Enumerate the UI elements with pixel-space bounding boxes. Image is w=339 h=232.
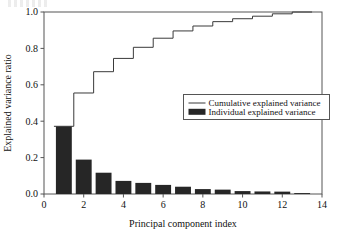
y-axis-title: Explained variance ratio [2,54,13,152]
chart-figure: 0.00.20.40.60.81.0 02468101214 Cumulativ… [0,0,339,232]
x-tick-label: 6 [161,199,166,210]
y-tick-label: 0.0 [26,188,39,199]
x-tick-label: 14 [317,199,327,210]
y-tick-label: 0.4 [26,116,39,127]
y-tick-label: 0.6 [26,79,39,90]
bar-item [115,181,131,194]
x-tick-label: 8 [200,199,205,210]
bar-item [56,126,72,194]
bar-item [155,185,171,194]
bar-item [215,190,231,194]
bar-item [195,189,211,194]
x-axis-title: Principal component index [129,218,237,229]
bar-item [96,173,112,194]
y-tick-label: 1.0 [26,6,39,17]
x-tick-label: 0 [42,199,47,210]
scan-artifact-top [8,0,48,7]
x-tick-label: 10 [238,199,248,210]
x-tick-label: 4 [121,199,126,210]
explained-variance-chart: 0.00.20.40.60.81.0 02468101214 Cumulativ… [0,0,339,232]
bar-item [294,193,310,194]
bar-item [135,183,151,194]
legend-bar-swatch [189,109,206,115]
bar-item [254,191,270,194]
legend-label-individual: Individual explained variance [209,107,316,117]
x-tick-label: 2 [81,199,86,210]
bar-item [235,191,251,194]
x-tick-label: 12 [277,199,287,210]
y-tick-label: 0.2 [26,152,39,163]
bar-item [76,160,92,194]
chart-legend: Cumulative explained varianceIndividual … [184,95,330,120]
bar-item [175,187,191,194]
y-tick-label: 0.8 [26,43,39,54]
bar-item [274,192,290,194]
